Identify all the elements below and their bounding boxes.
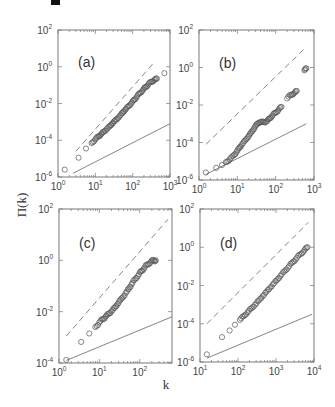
plot-frame	[58, 30, 170, 177]
tick-label: 10-4	[35, 133, 52, 146]
tick-label: 101	[193, 364, 208, 377]
data-point	[79, 339, 84, 344]
data-point	[83, 146, 88, 151]
data-point	[232, 322, 237, 327]
figure-canvas: 10010110210310-610-410-2100102(a)1001011…	[0, 0, 335, 407]
tick-label: 102	[268, 182, 283, 195]
corner-mark	[51, 0, 60, 5]
panel-b: 10010110210310-610-410-2100102(b)	[176, 23, 322, 195]
tick-label: 102	[179, 202, 194, 215]
plot-frame	[199, 30, 314, 180]
tick-label: 102	[178, 23, 193, 36]
reference-line-solid	[73, 124, 170, 174]
panel-label: (b)	[219, 55, 236, 71]
tick-label: 102	[231, 364, 246, 377]
tick-label: 10-4	[176, 136, 193, 149]
tick-label: 100	[37, 60, 52, 73]
tick-label: 100	[38, 253, 53, 266]
tick-label: 10-2	[36, 305, 53, 318]
tick-label: 10-2	[177, 279, 194, 292]
tick-label: 103	[307, 182, 322, 195]
tick-label: 10-2	[176, 98, 193, 111]
reference-line-solid	[207, 314, 312, 358]
tick-label: 104	[307, 364, 322, 377]
tick-label: 101	[92, 365, 107, 378]
tick-label: 10-4	[177, 317, 194, 330]
tick-label: 100	[179, 240, 194, 253]
data-point	[162, 71, 167, 76]
tick-label: 101	[230, 182, 245, 195]
reference-line-solid	[66, 317, 172, 361]
panels-group: 10010110210310-610-410-2100102(a)1001011…	[35, 23, 322, 378]
tick-label: 102	[37, 23, 52, 36]
x-axis-label: k	[163, 377, 170, 392]
data-point	[87, 331, 92, 336]
tick-label: 100	[52, 365, 67, 378]
data-point	[204, 352, 209, 357]
tick-label: 100	[178, 61, 193, 74]
panel-c: 10010110210-410-2100102(c)	[36, 202, 172, 378]
tick-label: 102	[38, 202, 53, 215]
panel-a: 10010110210310-610-410-2100102(a)	[35, 23, 178, 192]
tick-label: 102	[132, 365, 147, 378]
tick-label: 103	[269, 364, 284, 377]
tick-label: 102	[125, 179, 140, 192]
data-point	[76, 155, 81, 160]
tick-label: 10-2	[35, 97, 52, 110]
y-axis-label: Π(k)	[14, 193, 29, 218]
tick-label: 100	[51, 179, 66, 192]
panel-label: (a)	[78, 54, 95, 70]
data-point	[62, 167, 67, 172]
plot-frame	[200, 209, 314, 362]
data-point	[227, 328, 232, 333]
tick-label: 101	[88, 179, 103, 192]
panel-d: 10110210310410-610-410-2100102(d)	[177, 202, 322, 377]
data-point	[219, 335, 224, 340]
panel-label: (d)	[220, 235, 237, 251]
tick-label: 100	[192, 182, 207, 195]
panel-label: (c)	[79, 235, 95, 251]
reference-line-solid	[206, 124, 306, 175]
